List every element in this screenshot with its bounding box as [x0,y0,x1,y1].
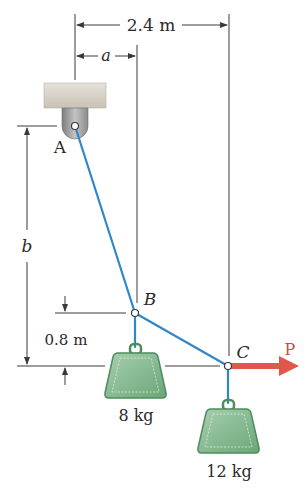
cable-system-diagram: 2.4 m a b 0.8 m P [0,0,308,488]
point-label-C: C [236,342,249,362]
support-block [44,83,106,108]
dimension-label-0-8m: 0.8 m [45,331,88,349]
dimension-b: b [17,126,105,366]
dimension-label-a: a [101,46,111,65]
force-label-P: P [285,340,296,359]
mass-label-8kg: 8 kg [118,406,153,425]
dimension-label-2-4m: 2.4 m [127,15,176,35]
dimension-label-b: b [22,236,33,256]
cable-AB [75,126,135,313]
weight-12kg: 12 kg [198,400,259,481]
point-label-B: B [143,289,157,309]
pin-B-icon [132,310,139,317]
force-arrow-icon [279,356,299,376]
mass-label-12kg: 12 kg [206,462,251,481]
pin-C-icon [225,363,232,370]
force-arrow-shaft [231,363,281,369]
weight-8kg: 8 kg [105,344,166,425]
ceiling-support [44,83,106,139]
pin-A-icon [72,123,79,130]
point-label-A: A [53,137,67,157]
weight-body [198,409,259,453]
weight-body [105,353,166,398]
